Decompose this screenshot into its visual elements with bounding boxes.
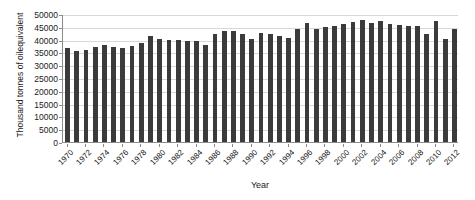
x-tick-mark: [343, 144, 344, 147]
bar: [74, 51, 79, 142]
y-tick-label: 45000: [18, 24, 58, 32]
bar: [397, 25, 402, 142]
y-tick-label: 50000: [18, 11, 58, 19]
bar: [259, 33, 264, 142]
bar: [277, 36, 282, 142]
y-tick-label: 10000: [18, 113, 58, 121]
bar: [148, 36, 153, 142]
y-tick-label: 5000: [18, 126, 58, 134]
x-tick-mark: [214, 144, 215, 147]
x-tick-mark: [398, 144, 399, 147]
x-tick-mark: [324, 144, 325, 147]
x-tick-mark: [140, 144, 141, 147]
x-tick-mark: [122, 144, 123, 147]
bar: [120, 48, 125, 142]
x-tick-mark: [103, 144, 104, 147]
bar: [415, 26, 420, 142]
x-tick-mark: [196, 144, 197, 147]
x-axis-ticks: 1970197219741976197819801982198419861988…: [62, 144, 458, 178]
bar: [351, 22, 356, 142]
bars-layer: [63, 15, 458, 142]
bar: [434, 21, 439, 142]
bar: [388, 24, 393, 142]
y-axis-ticks: 0500010000150002000025000300003500040000…: [14, 15, 58, 143]
bar: [222, 31, 227, 142]
bar: [231, 31, 236, 142]
bar: [176, 40, 181, 142]
bar: [424, 34, 429, 142]
y-tick-label: 20000: [18, 88, 58, 96]
bar: [111, 47, 116, 142]
bar: [185, 41, 190, 142]
bar: [314, 29, 319, 142]
x-tick-mark: [435, 144, 436, 147]
x-tick-mark: [269, 144, 270, 147]
plot-area: [62, 15, 458, 143]
bar: [203, 45, 208, 142]
x-tick-mark: [177, 144, 178, 147]
y-tick-label: 35000: [18, 49, 58, 57]
x-axis-title: Year: [62, 180, 458, 190]
bar: [305, 23, 310, 142]
x-tick-mark: [67, 144, 68, 147]
y-tick-label: 0: [18, 139, 58, 147]
bar: [65, 48, 70, 142]
y-tick-label: 30000: [18, 62, 58, 70]
bar: [249, 39, 254, 142]
x-tick-mark: [361, 144, 362, 147]
bar: [369, 23, 374, 142]
bar: [240, 34, 245, 142]
bar: [286, 38, 291, 142]
bar: [295, 29, 300, 142]
bar: [406, 26, 411, 142]
bar: [157, 39, 162, 142]
bar: [93, 47, 98, 142]
y-tick-label: 25000: [18, 75, 58, 83]
bar: [84, 50, 89, 142]
y-tick-label: 40000: [18, 37, 58, 45]
bar: [452, 29, 457, 142]
x-tick-mark: [159, 144, 160, 147]
bar: [102, 45, 107, 142]
x-tick-mark: [251, 144, 252, 147]
x-tick-mark: [380, 144, 381, 147]
bar: [139, 43, 144, 142]
y-tick-label: 15000: [18, 101, 58, 109]
x-tick-mark: [306, 144, 307, 147]
bar: [130, 46, 135, 142]
bar: [194, 41, 199, 142]
x-tick-mark: [85, 144, 86, 147]
x-tick-mark: [232, 144, 233, 147]
bar: [443, 39, 448, 142]
bar: [213, 34, 218, 142]
x-tick-mark: [288, 144, 289, 147]
bar: [323, 27, 328, 142]
bar: [360, 20, 365, 142]
bar: [332, 26, 337, 142]
bar: [378, 21, 383, 142]
bar: [167, 40, 172, 142]
bar-chart: Thousand tonnes of oilequivalent 0500010…: [0, 0, 475, 200]
x-tick-mark: [453, 144, 454, 147]
x-tick-mark: [417, 144, 418, 147]
bar: [341, 24, 346, 142]
bar: [268, 34, 273, 142]
